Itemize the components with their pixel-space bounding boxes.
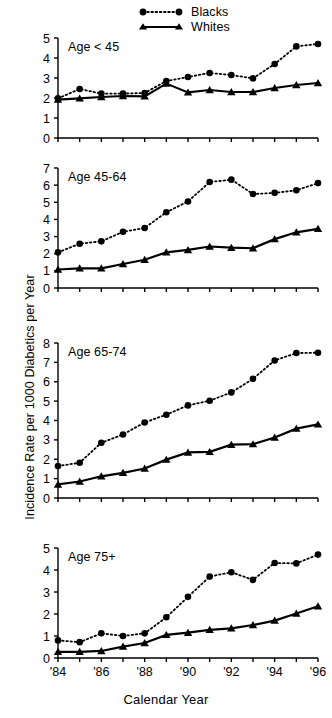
figure-incidence-rate-by-age: Blacks Whites 012345Age < 4501234567Age … (0, 0, 332, 718)
x-tick-label: '90 (180, 665, 196, 679)
y-tick-label: 7 (43, 356, 50, 370)
data-point-blacks (98, 630, 105, 637)
x-tick-label: '86 (93, 665, 109, 679)
data-point-blacks (76, 459, 83, 466)
data-point-blacks (293, 187, 300, 194)
data-point-blacks (271, 560, 278, 567)
y-tick-label: 0 (43, 652, 50, 666)
x-tick-label: '88 (137, 665, 153, 679)
panel-plot: 012345 (0, 28, 332, 152)
legend-entry-blacks: Blacks (138, 4, 288, 19)
data-point-blacks (76, 240, 83, 247)
data-point-whites (314, 602, 322, 609)
data-point-blacks (163, 614, 170, 621)
panel-plot: 012345678 (0, 333, 332, 512)
data-point-blacks (98, 238, 105, 245)
x-tick-label: '84 (50, 665, 66, 679)
data-point-blacks (250, 191, 257, 198)
data-point-blacks (185, 402, 192, 409)
y-tick-label: 0 (43, 282, 50, 296)
data-point-blacks (315, 551, 322, 558)
data-point-blacks (293, 43, 300, 50)
axis-lines (58, 548, 318, 658)
data-point-blacks (185, 74, 192, 81)
panel-title: Age 45-64 (68, 170, 127, 184)
data-point-blacks (55, 637, 62, 644)
y-tick-label: 6 (43, 179, 50, 193)
data-point-blacks (250, 376, 257, 383)
series-line-blacks (58, 180, 318, 253)
x-tick-label: '96 (310, 665, 326, 679)
panel-age-75: 012345'84'86'88'90'92'94'96Age 75+ (0, 538, 332, 692)
y-tick-label: 4 (43, 52, 50, 66)
y-tick-label: 7 (43, 162, 50, 176)
panel-age-45: 012345Age < 45 (0, 28, 332, 152)
data-point-blacks (141, 630, 148, 637)
data-point-blacks (76, 86, 83, 93)
panel-title: Age < 45 (68, 40, 119, 54)
y-tick-label: 4 (43, 564, 50, 578)
data-point-blacks (98, 439, 105, 446)
data-point-blacks (293, 560, 300, 567)
data-point-blacks (206, 179, 213, 186)
y-tick-label: 5 (43, 196, 50, 210)
data-point-blacks (293, 350, 300, 357)
panel-age-45-64: 01234567Age 45-64 (0, 158, 332, 302)
y-tick-label: 3 (43, 433, 50, 447)
y-tick-label: 5 (43, 542, 50, 556)
y-tick-label: 1 (43, 630, 50, 644)
data-point-blacks (163, 411, 170, 418)
y-tick-label: 8 (43, 337, 50, 351)
panel-age-65-74: 012345678Age 65-74 (0, 333, 332, 512)
data-point-blacks (228, 569, 235, 576)
data-point-blacks (271, 190, 278, 197)
data-point-blacks (206, 70, 213, 77)
data-point-blacks (228, 176, 235, 183)
x-axis-title: Calendar Year (0, 692, 332, 707)
y-tick-label: 2 (43, 453, 50, 467)
x-tick-label: '94 (267, 665, 283, 679)
legend-label-blacks: Blacks (184, 5, 228, 19)
data-point-blacks (271, 357, 278, 364)
data-point-blacks (185, 198, 192, 205)
axis-lines (58, 168, 318, 288)
y-tick-label: 4 (43, 213, 50, 227)
y-tick-label: 6 (43, 375, 50, 389)
data-point-blacks (55, 463, 62, 470)
data-point-blacks (76, 639, 83, 646)
y-tick-label: 3 (43, 230, 50, 244)
data-point-blacks (206, 397, 213, 404)
y-axis-title: Incidence Rate per 1000 Diabetics per Ye… (23, 137, 37, 657)
data-point-blacks (120, 633, 127, 640)
x-tick-label: '92 (223, 665, 239, 679)
y-tick-label: 1 (43, 112, 50, 126)
y-tick-label: 4 (43, 414, 50, 428)
panel-plot: 01234567 (0, 158, 332, 302)
y-tick-label: 0 (43, 492, 50, 506)
data-point-blacks (250, 75, 257, 82)
data-point-blacks (206, 573, 213, 580)
y-tick-label: 1 (43, 472, 50, 486)
y-tick-label: 2 (43, 608, 50, 622)
y-tick-label: 1 (43, 264, 50, 278)
y-tick-label: 2 (43, 247, 50, 261)
data-point-blacks (271, 61, 278, 68)
data-point-blacks (55, 249, 62, 256)
legend-symbol-dotted-circle (138, 5, 184, 19)
data-point-blacks (250, 577, 257, 584)
data-point-blacks (141, 225, 148, 232)
data-point-blacks (315, 180, 322, 187)
panel-title: Age 65-74 (68, 345, 127, 359)
y-tick-label: 0 (43, 132, 50, 146)
y-tick-label: 2 (43, 92, 50, 106)
y-tick-label: 5 (43, 32, 50, 46)
data-point-blacks (228, 72, 235, 79)
data-point-blacks (315, 349, 322, 356)
data-point-blacks (228, 389, 235, 396)
y-tick-label: 5 (43, 395, 50, 409)
y-tick-label: 3 (43, 586, 50, 600)
data-point-blacks (120, 431, 127, 438)
data-point-blacks (163, 209, 170, 216)
data-point-blacks (315, 41, 322, 48)
axis-lines (58, 343, 318, 498)
